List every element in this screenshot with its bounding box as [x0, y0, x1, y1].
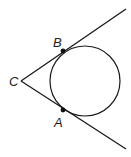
- tangent-line-cb: [21, 9, 126, 81]
- label-b: B: [53, 35, 62, 50]
- circle: [50, 46, 120, 116]
- label-c: C: [9, 74, 19, 89]
- point-a-dot: [61, 108, 66, 113]
- tangent-diagram: B C A: [0, 0, 131, 157]
- tangent-line-ca: [21, 81, 126, 149]
- label-a: A: [53, 115, 63, 130]
